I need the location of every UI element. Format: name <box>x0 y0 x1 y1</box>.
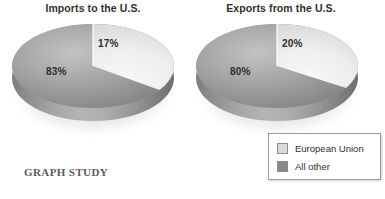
chart-title-imports: Imports to the U.S. <box>4 0 182 14</box>
pie-top-face <box>196 24 358 108</box>
legend-label-european-union: European Union <box>295 143 364 154</box>
pie-top-face <box>12 24 174 108</box>
legend-swatch-icon <box>277 161 288 172</box>
legend-label-all-other: All other <box>295 161 330 172</box>
legend: European Union All other <box>268 133 381 180</box>
chart-title-exports: Exports from the U.S. <box>188 0 366 14</box>
pie-value-label-all-other: 83% <box>46 66 67 77</box>
pie-chart-exports: Exports from the U.S. <box>188 0 366 136</box>
legend-swatch-icon <box>277 143 288 154</box>
graph-study-caption: GRAPH STUDY <box>24 166 108 178</box>
pie-graphic-exports: 20% 80% <box>194 16 360 136</box>
legend-item-european-union: European Union <box>277 139 374 157</box>
pie-value-label-european-union: 17% <box>98 38 119 49</box>
pie-value-label-all-other: 80% <box>230 66 251 77</box>
legend-item-all-other: All other <box>277 157 374 175</box>
graph-study-figure: Imports to the U.S. <box>0 0 385 199</box>
pie-graphic-imports: 17% 83% <box>10 16 176 136</box>
pie-value-label-european-union: 20% <box>282 38 303 49</box>
pie-chart-imports: Imports to the U.S. <box>4 0 182 136</box>
